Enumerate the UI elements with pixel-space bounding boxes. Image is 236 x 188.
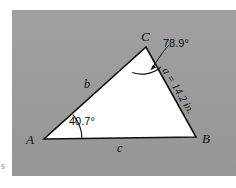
angle-label-a: 40.7° <box>69 116 95 127</box>
angle-label-c: 78.9° <box>163 38 189 49</box>
vertex-label-b: B <box>202 132 210 145</box>
vertex-label-a: A <box>26 133 34 146</box>
triangle-drawing <box>0 0 236 188</box>
triangle-figure: A B C b c a = 14.2 in. 40.7° 78.9° s <box>0 0 236 188</box>
page-edge-glyph: s <box>1 160 8 171</box>
side-label-c: c <box>117 142 122 154</box>
vertex-label-c: C <box>141 30 150 43</box>
side-label-b: b <box>84 78 90 90</box>
